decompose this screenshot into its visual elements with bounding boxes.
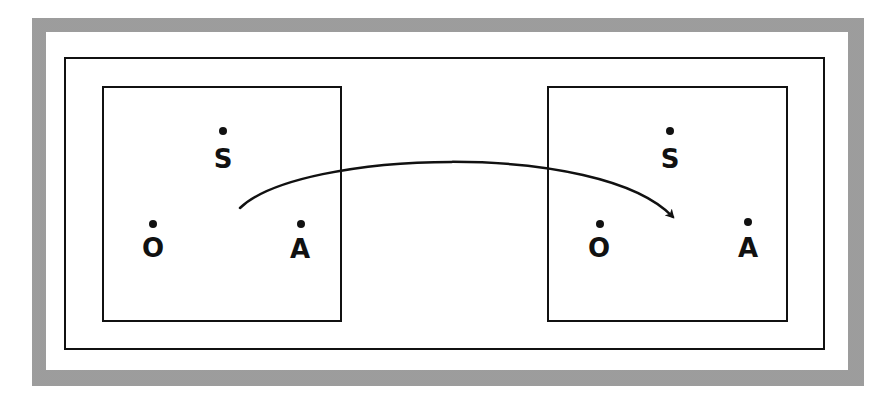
right-point-o-dot [596, 220, 604, 228]
right-point-s-label: S [661, 146, 680, 172]
left-point-a-label: A [290, 236, 310, 262]
right-point-a-dot [744, 218, 752, 226]
left-point-o-label: O [142, 235, 164, 261]
left-point-s-label: S [214, 146, 233, 172]
right-point-o-label: O [588, 235, 610, 261]
left-point-s-dot [219, 127, 227, 135]
left-point-a-dot [297, 220, 305, 228]
right-point-s-dot [666, 127, 674, 135]
right-point-a-label: A [738, 235, 758, 261]
left-point-o-dot [149, 220, 157, 228]
right-world-box [547, 86, 788, 322]
left-world-box [102, 86, 342, 322]
